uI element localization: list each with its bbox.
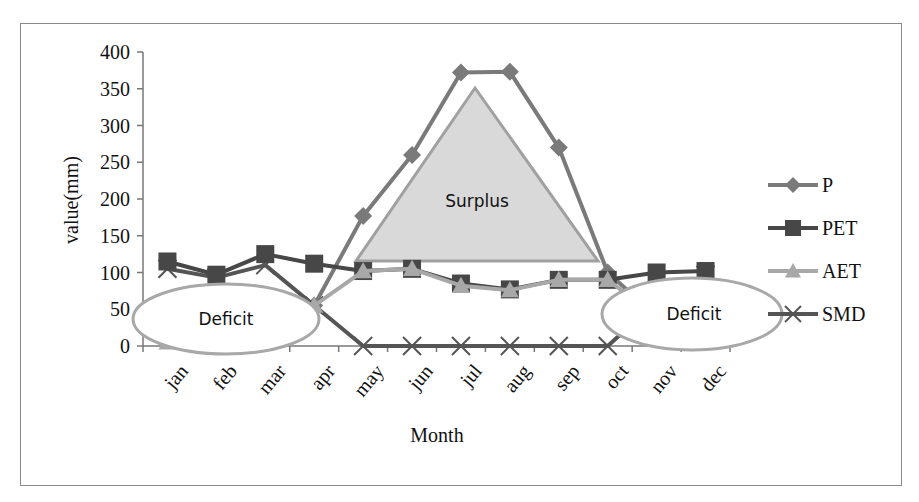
deficit-label-right: Deficit — [667, 304, 722, 324]
svg-text:P: P — [822, 174, 833, 196]
x-tick-label: jun — [403, 360, 438, 395]
legend-item-aet: AET — [768, 260, 861, 282]
svg-text:PET: PET — [822, 217, 858, 239]
y-tick-label: 200 — [100, 188, 130, 210]
svg-text:SMD: SMD — [822, 303, 865, 325]
x-tick-label: nov — [645, 360, 681, 397]
y-tick-label: 0 — [120, 335, 130, 357]
y-tick-label: 100 — [100, 262, 130, 284]
y-axis-title: value(mm) — [60, 156, 83, 244]
surplus-label: Surplus — [445, 191, 509, 211]
x-tick-label: sep — [550, 360, 585, 395]
x-tick-label: mar — [253, 360, 290, 398]
line-chart: 050100150200250300350400 janfebmaraprmay… — [0, 0, 919, 502]
y-tick-label: 50 — [110, 298, 130, 320]
legend: PPETAETSMD — [768, 174, 865, 325]
x-tick-label: oct — [600, 360, 633, 393]
y-tick-label: 400 — [100, 41, 130, 63]
x-tick-label: dec — [696, 360, 731, 395]
x-tick-label: apr — [306, 360, 340, 395]
x-axis-title: Month — [410, 424, 463, 446]
deficit-label-left: Deficit — [199, 309, 254, 329]
x-tick-label: aug — [499, 360, 535, 397]
x-tick-label: jul — [455, 360, 487, 392]
legend-item-pet: PET — [768, 217, 858, 239]
y-tick-label: 250 — [100, 151, 130, 173]
y-tick-label: 350 — [100, 78, 130, 100]
x-tick-label: jan — [159, 360, 193, 394]
surplus-triangle — [356, 88, 598, 261]
legend-item-p: P — [768, 174, 833, 196]
x-tick-label: feb — [208, 360, 241, 394]
x-tick-label: may — [349, 360, 389, 401]
svg-text:AET: AET — [822, 260, 861, 282]
y-tick-label: 300 — [100, 115, 130, 137]
y-tick-label: 150 — [100, 225, 130, 247]
legend-item-smd: SMD — [768, 303, 865, 325]
